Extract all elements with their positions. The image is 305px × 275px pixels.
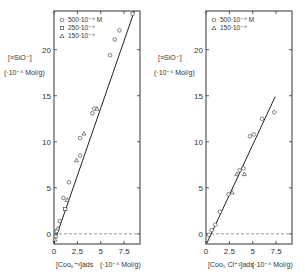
- y-axis-label: [≡SiO⁻]: [8, 54, 32, 62]
- data-point: [64, 207, 67, 210]
- data-point: [78, 136, 82, 140]
- data-point: [214, 223, 218, 227]
- y-axis-unit: (·10⁻⁶ Mol/g): [4, 69, 45, 77]
- legend-label: 150·10⁻⁶: [220, 24, 247, 31]
- chart-panel-right: 0510152002.557.5500·10⁻⁶ M150·10⁻⁶[≡SiO⁻…: [154, 11, 293, 269]
- data-point: [67, 180, 71, 184]
- x-axis-label: [Coo₅ Cl⁺²]ads: [208, 261, 254, 269]
- x-tick-label: 7.5: [119, 247, 131, 256]
- legend-label: 500·10⁻⁶ M: [68, 16, 102, 23]
- y-tick-label: 0: [199, 230, 204, 239]
- chart-panel-left: 0510152002.557.5500·10⁻⁶ M250·10⁻⁶150·10…: [4, 11, 141, 269]
- y-tick-label: 20: [42, 46, 51, 55]
- data-point: [227, 192, 231, 196]
- legend-marker-icon: [60, 18, 64, 22]
- plot-frame: [206, 11, 292, 244]
- data-point: [242, 167, 246, 171]
- data-point: [91, 111, 95, 115]
- data-point: [235, 172, 239, 176]
- y-tick-label: 20: [194, 46, 203, 55]
- data-point: [252, 133, 256, 137]
- data-point: [248, 134, 252, 138]
- y-axis-label: [≡SiO⁻]: [158, 54, 182, 62]
- y-tick-label: 5: [199, 184, 204, 193]
- x-tick-label: 5: [251, 247, 256, 256]
- y-tick-label: 10: [194, 138, 203, 147]
- data-point: [131, 12, 135, 16]
- legend-marker-icon: [60, 26, 63, 29]
- data-point: [238, 169, 242, 173]
- x-tick-label: 5: [99, 247, 104, 256]
- data-point: [58, 219, 62, 223]
- legend-label: 150·10⁻⁶: [68, 32, 95, 39]
- y-axis-unit: (·10⁻⁶ Mol/g): [154, 69, 195, 77]
- data-point: [242, 172, 246, 176]
- x-tick-label: 2.5: [72, 247, 84, 256]
- data-point: [108, 53, 112, 57]
- x-tick-label: 7.5: [271, 247, 283, 256]
- data-point: [113, 38, 117, 42]
- data-point: [65, 198, 69, 202]
- x-tick-label: 0: [204, 247, 209, 256]
- x-axis-unit: (·10⁻⁶ Mol/g): [252, 261, 293, 269]
- y-tick-label: 15: [42, 92, 51, 101]
- x-tick-label: 2.5: [224, 247, 236, 256]
- x-tick-label: 0: [52, 247, 57, 256]
- data-point: [218, 210, 222, 214]
- legend-marker-icon: [212, 26, 216, 30]
- data-point: [207, 233, 211, 237]
- legend-label: 250·10⁻⁶: [68, 24, 95, 31]
- data-point: [260, 117, 264, 121]
- y-tick-label: 5: [47, 184, 52, 193]
- data-point: [272, 111, 276, 115]
- x-axis-unit: (·10⁻⁶ Mol/g): [100, 261, 141, 269]
- y-tick-label: 0: [47, 230, 52, 239]
- legend-marker-icon: [60, 34, 64, 38]
- x-axis-label: [Coo₆⁺³]ads: [56, 261, 94, 269]
- data-point: [62, 196, 66, 200]
- y-tick-label: 15: [194, 92, 203, 101]
- data-point: [82, 131, 86, 135]
- chart-figure: 0510152002.557.5500·10⁻⁶ M250·10⁻⁶150·10…: [0, 0, 305, 275]
- legend-label: 500·10⁻⁶ M: [220, 16, 254, 23]
- legend-marker-icon: [212, 18, 216, 22]
- data-point: [210, 228, 214, 232]
- y-tick-label: 10: [42, 138, 51, 147]
- data-point: [74, 158, 78, 162]
- data-point: [78, 154, 82, 158]
- data-point: [118, 29, 122, 33]
